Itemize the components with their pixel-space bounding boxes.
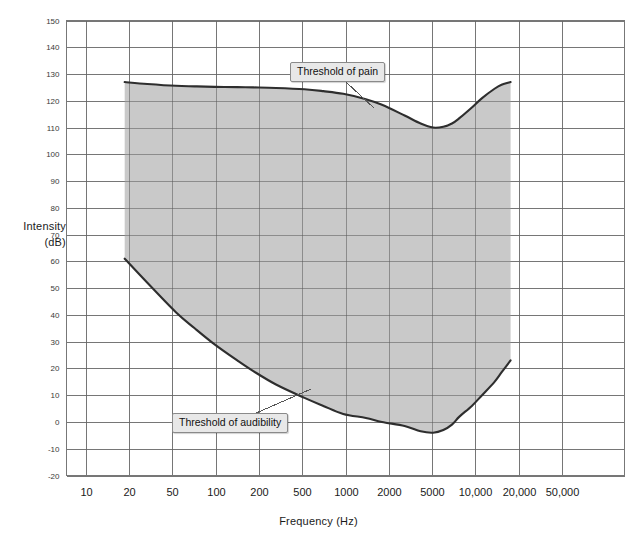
y-axis-tick-label: 140 bbox=[34, 43, 60, 52]
audible-region bbox=[125, 82, 511, 433]
y-axis-tick-label: 60 bbox=[34, 257, 60, 266]
y-axis-tick-label: -10 bbox=[34, 445, 60, 454]
y-axis-tick-label: 100 bbox=[34, 150, 60, 159]
y-axis-tick-label: 130 bbox=[34, 70, 60, 79]
threshold-of-pain-label: Threshold of pain bbox=[297, 65, 378, 77]
y-axis-tick-label: -20 bbox=[34, 472, 60, 481]
hearing-range-chart: Intensity (dB) Frequency (Hz) 1501401301… bbox=[0, 0, 637, 545]
audible-region-fill bbox=[125, 82, 511, 433]
y-axis-tick-label: 110 bbox=[34, 124, 60, 133]
y-axis-tick-label: 10 bbox=[34, 391, 60, 400]
y-axis-tick-label: 80 bbox=[34, 204, 60, 213]
y-axis-tick-label: 70 bbox=[34, 231, 60, 240]
threshold-of-audibility-label: Threshold of audibility bbox=[179, 416, 281, 428]
y-axis-tick-label: 150 bbox=[34, 17, 60, 26]
y-axis-tick-label: 30 bbox=[34, 338, 60, 347]
y-axis-tick-label: 0 bbox=[34, 418, 60, 427]
threshold-of-audibility-callout: Threshold of audibility bbox=[172, 413, 288, 433]
y-axis-tick-label: 40 bbox=[34, 311, 60, 320]
y-axis-tick-label: 120 bbox=[34, 97, 60, 106]
x-axis-tick-label: 50,000 bbox=[533, 486, 593, 498]
y-axis-tick-label: 50 bbox=[34, 284, 60, 293]
y-axis-tick-label: 20 bbox=[34, 364, 60, 373]
threshold-of-pain-callout: Threshold of pain bbox=[290, 62, 385, 82]
x-axis-title: Frequency (Hz) bbox=[0, 515, 637, 527]
y-axis-tick-label: 90 bbox=[34, 177, 60, 186]
